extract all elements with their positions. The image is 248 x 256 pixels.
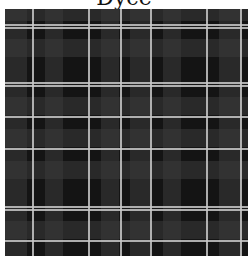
horizontal-white-stripe	[5, 206, 248, 208]
vertical-white-stripe	[150, 9, 152, 256]
horizontal-gray-band	[5, 39, 248, 57]
horizontal-white-stripe	[5, 116, 248, 118]
vertical-white-stripe	[120, 9, 122, 256]
horizontal-white-stripe	[5, 209, 248, 211]
horizontal-gray-band	[5, 129, 248, 147]
horizontal-white-stripe	[5, 148, 248, 150]
vertical-white-stripe	[240, 9, 242, 256]
vertical-white-stripe	[32, 9, 34, 256]
horizontal-gray-band	[5, 97, 248, 115]
vertical-white-stripe	[88, 9, 90, 256]
horizontal-gray-band	[5, 9, 248, 21]
horizontal-gray-band	[5, 221, 248, 239]
horizontal-gray-band	[5, 161, 248, 179]
vertical-white-stripe	[206, 9, 208, 256]
horizontal-white-stripe	[5, 24, 248, 26]
tartan-swatch	[5, 9, 248, 256]
horizontal-white-stripe	[5, 85, 248, 87]
horizontal-white-stripe	[5, 240, 248, 242]
horizontal-white-stripe	[5, 27, 248, 29]
horizontal-white-stripe	[5, 82, 248, 84]
